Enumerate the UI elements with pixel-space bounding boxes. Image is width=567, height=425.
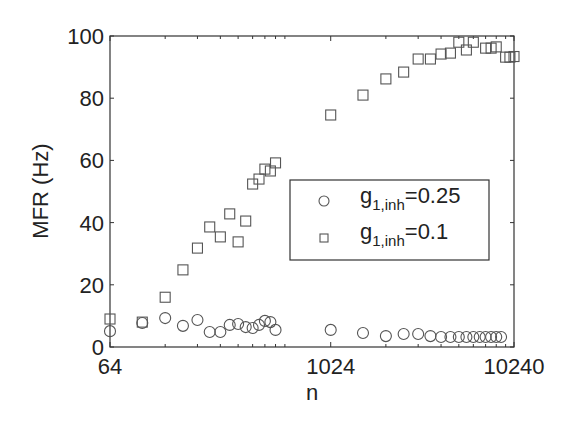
data-point-square [445,48,455,58]
series-circles [105,313,507,343]
data-point-square [178,265,188,275]
scatter-chart: 020406080100 64102410240 MFR (Hz) n g1,i… [0,0,567,425]
data-point-circle [233,318,244,329]
data-point-circle [325,324,336,335]
data-point-square [425,54,435,64]
data-point-square [233,237,243,247]
x-axis-label: n [306,380,318,405]
data-point-circle [425,331,436,342]
x-tick-label: 10240 [483,354,544,379]
data-point-square [436,49,446,59]
y-tick-label: 80 [80,86,104,111]
data-point-square [241,216,251,226]
data-point-square [205,222,215,232]
data-point-square [192,243,202,253]
data-point-square [326,110,336,120]
data-point-square [399,67,409,77]
data-point-circle [461,332,472,343]
data-point-square [215,232,225,242]
data-point-square [461,45,471,55]
data-point-circle [204,327,215,338]
y-axis-label: MFR (Hz) [28,143,53,238]
y-tick-label: 100 [67,24,104,49]
data-point-circle [192,314,203,325]
data-point-square [160,292,170,302]
data-point-circle [380,331,391,342]
data-point-circle [468,332,479,343]
data-point-square [381,74,391,84]
data-point-circle [496,332,507,343]
legend: g1,inh=0.25 g1,inh=0.1 [290,180,489,260]
data-point-square [413,54,423,64]
data-point-square [358,90,368,100]
y-tick-label: 60 [80,148,104,173]
data-point-circle [215,327,226,338]
x-tick-label: 64 [98,354,122,379]
data-point-circle [357,328,368,339]
data-point-square [225,209,235,219]
data-point-circle [160,313,171,324]
y-tick-label: 40 [80,211,104,236]
data-point-circle [247,323,258,334]
data-point-circle [270,324,281,335]
data-point-circle [398,328,409,339]
data-point-circle [177,320,188,331]
y-tick-label: 20 [80,273,104,298]
x-tick-label: 1024 [306,354,355,379]
data-point-circle [413,328,424,339]
